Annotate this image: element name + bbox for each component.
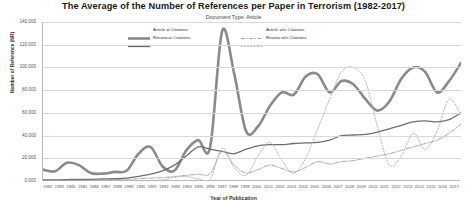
x-axis-tick-label: 1990 (135, 184, 147, 194)
x-axis-tick-label: 2014 (414, 184, 426, 194)
x-axis-tick-label: 1997 (216, 184, 228, 194)
x-axis-tick-label: 1985 (77, 184, 89, 194)
legend-item[interactable]: Review w/o Citations (241, 35, 350, 40)
legend-swatch-icon (128, 35, 150, 40)
chart-legend: Article w CitationsArticle w/o Citations… (128, 27, 350, 40)
x-axis-tick-label: 2001 (263, 184, 275, 194)
chart-subtitle: Document Type: Article (0, 14, 467, 20)
legend-item[interactable]: Article w/o Citations (241, 27, 350, 32)
legend-item[interactable]: Review w Citations (128, 35, 237, 40)
legend-swatch-icon (241, 35, 263, 40)
x-axis-tick-label: 2002 (274, 184, 286, 194)
legend-label: Article w/o Citations (266, 27, 305, 32)
x-axis-tick-label: 2007 (332, 184, 344, 194)
y-axis-tick-label: 140.000 (0, 19, 36, 24)
legend-label: Review w Citations (153, 35, 190, 40)
x-axis-tick-label: 1995 (193, 184, 205, 194)
series-line (43, 29, 461, 174)
x-axis-tick-label: 2000 (251, 184, 263, 194)
y-axis-tick-label: 20.000 (0, 155, 36, 160)
x-axis-tick-label: 2010 (367, 184, 379, 194)
x-axis-tick-label: 2009 (355, 184, 367, 194)
chart-container: The Average of the Number of References … (0, 0, 467, 210)
x-axis-tick-label: 1988 (112, 184, 124, 194)
y-axis-tick-label: 40.000 (0, 133, 36, 138)
legend-item[interactable]: Article w Citations (128, 27, 237, 32)
x-axis-tick-label: 1994 (181, 184, 193, 194)
x-axis-tick-label: 1991 (146, 184, 158, 194)
y-axis-tick-label: 0.000 (0, 178, 36, 183)
x-axis-tick-label: 2003 (286, 184, 298, 194)
y-axis-tick-label: 80.000 (0, 87, 36, 92)
y-axis-tick-label: 120.000 (0, 42, 36, 47)
y-axis-tick-label: 60.000 (0, 110, 36, 115)
gridline (43, 136, 461, 137)
x-axis-tick-label: 2005 (309, 184, 321, 194)
x-axis-tick-label: 1986 (88, 184, 100, 194)
x-axis-tick-label: 1987 (100, 184, 112, 194)
x-axis-tick-label: 1984 (65, 184, 77, 194)
x-axis-tick-labels: 1982198319841985198619871988198919901991… (42, 184, 460, 194)
series-line (43, 113, 461, 180)
x-axis-tick-label: 2008 (344, 184, 356, 194)
x-axis-tick-label: 1982 (42, 184, 54, 194)
x-axis-title: Year of Publication (0, 195, 467, 201)
x-axis-tick-label: 2012 (390, 184, 402, 194)
x-axis-tick-label: 1993 (170, 184, 182, 194)
x-axis-tick-label: 2004 (297, 184, 309, 194)
x-axis-tick-label: 1998 (228, 184, 240, 194)
x-axis-tick-label: 2006 (321, 184, 333, 194)
legend-label: Review w/o Citations (266, 35, 307, 40)
gridline (43, 22, 461, 23)
y-axis-tick-label: 100.000 (0, 64, 36, 69)
x-axis-tick-label: 1992 (158, 184, 170, 194)
legend-label: Article w Citations (153, 27, 188, 32)
x-axis-tick-label: 1996 (205, 184, 217, 194)
x-axis-tick-label: 1983 (54, 184, 66, 194)
x-axis-tick-label: 2013 (402, 184, 414, 194)
gridline (43, 90, 461, 91)
x-axis-tick-label: 2016 (437, 184, 449, 194)
legend-swatch-icon (128, 27, 150, 32)
gridline (43, 158, 461, 159)
x-axis-tick-label: 2015 (425, 184, 437, 194)
x-axis-tick-label: 2011 (379, 184, 391, 194)
gridline (43, 113, 461, 114)
chart-title: The Average of the Number of References … (0, 1, 467, 11)
legend-swatch-icon (241, 27, 263, 32)
x-axis-tick-label: 1989 (123, 184, 135, 194)
x-axis-tick-label: 1999 (239, 184, 251, 194)
x-axis-tick-label: 2017 (448, 184, 460, 194)
gridline (43, 67, 461, 68)
